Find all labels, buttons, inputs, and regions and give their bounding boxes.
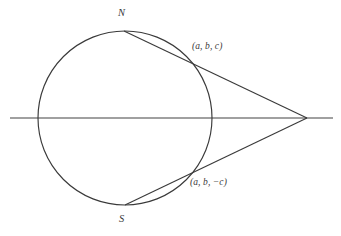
label-south-pole: S xyxy=(119,214,124,225)
label-north-pole: N xyxy=(118,8,125,19)
label-upper-coordinate: (a, b, c) xyxy=(192,42,222,52)
geometry-diagram xyxy=(0,0,341,236)
figure-canvas: N S (a, b, c) (a, b, −c) xyxy=(0,0,341,236)
label-lower-coordinate: (a, b, −c) xyxy=(190,178,227,188)
chord-south-to-apex xyxy=(125,118,307,205)
